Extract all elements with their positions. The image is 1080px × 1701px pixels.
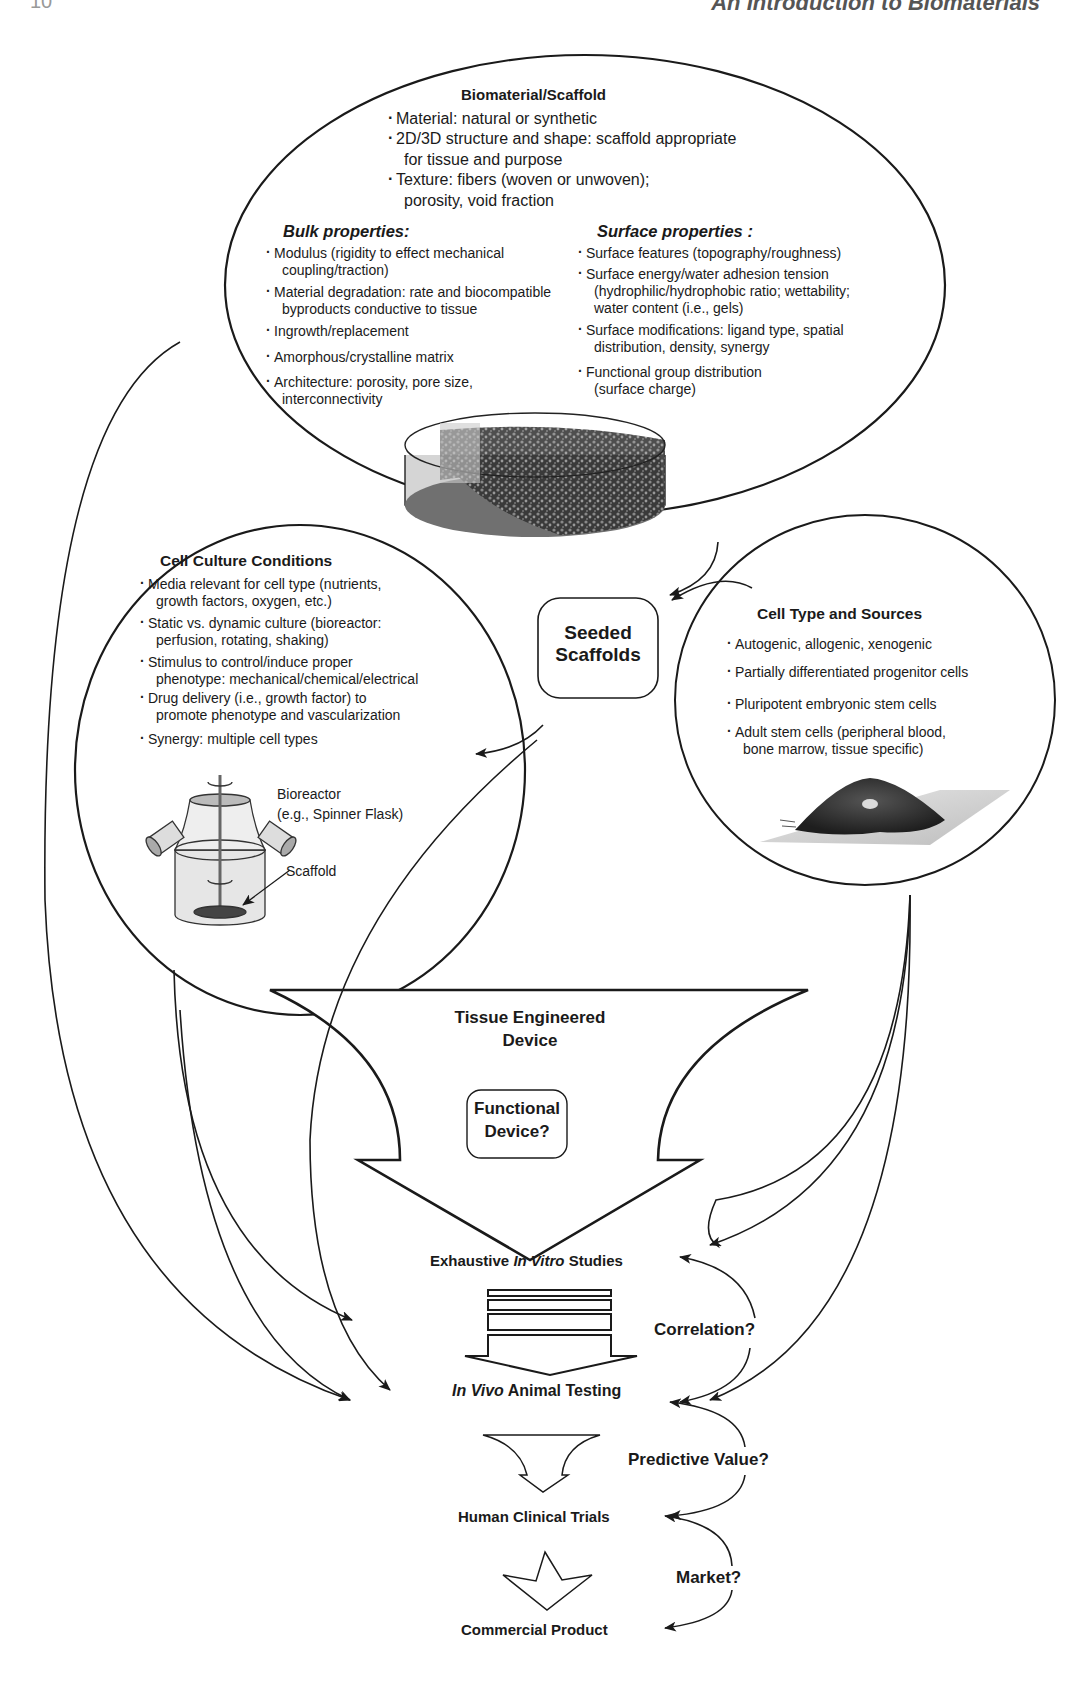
arrow-biomaterial-to-seeded: [670, 542, 718, 595]
list-item: perfusion, rotating, shaking): [140, 632, 418, 648]
market-label: Market?: [676, 1568, 741, 1588]
in-vitro-arrow: [465, 1290, 637, 1375]
arrow-culture-to-invivo: [180, 1010, 350, 1400]
bioreactor-example-label: (e.g., Spinner Flask): [277, 806, 403, 822]
in-vivo-suffix: Animal Testing: [504, 1382, 621, 1399]
list-item: Partially differentiated progenitor cell…: [727, 664, 968, 680]
cell-type-list: Autogenic, allogenic, xenogenic Partiall…: [727, 636, 968, 763]
list-item: (hydrophilic/hydrophobic ratio; wettabil…: [578, 283, 850, 299]
device-label: Tissue Engineered Device: [400, 1008, 660, 1050]
functional-device-label: Functional Device?: [467, 1099, 567, 1141]
biomaterial-general-list: Material: natural or synthetic 2D/3D str…: [388, 110, 736, 216]
bioreactor-label: Bioreactor: [277, 786, 341, 802]
arrow-correlation-up: [680, 1257, 755, 1318]
biomaterial-title: Biomaterial/Scaffold: [461, 86, 606, 103]
list-item: Media relevant for cell type (nutrients,: [140, 576, 418, 592]
list-item: Adult stem cells (peripheral blood,: [727, 724, 968, 740]
device-line-2: Device: [400, 1031, 660, 1051]
in-vitro-italic: In Vitro: [513, 1252, 564, 1269]
list-item: phenotype: mechanical/chemical/electrica…: [140, 671, 418, 687]
surface-properties-list: Surface features (topography/roughness) …: [578, 245, 850, 403]
list-item: Modulus (rigidity to effect mechanical: [266, 245, 551, 261]
list-item: Amorphous/crystalline matrix: [266, 349, 551, 365]
cell-culture-list: Media relevant for cell type (nutrients,…: [140, 576, 418, 753]
list-item: Stimulus to control/induce proper: [140, 654, 418, 670]
seeded-line-2: Scaffolds: [538, 644, 658, 666]
scaffold-cylinder-illustration: [405, 413, 665, 537]
list-item: byproducts conductive to tissue: [266, 301, 551, 317]
arrow-seeded-to-culture: [476, 725, 543, 754]
commercial-product-label: Commercial Product: [461, 1621, 608, 1638]
list-item: water content (i.e., gels): [578, 300, 850, 316]
arrow-predictive-down: [670, 1475, 745, 1516]
cell-type-title: Cell Type and Sources: [757, 605, 922, 623]
cell-culture-title: Cell Culture Conditions: [160, 552, 332, 570]
in-vivo-funnel: [483, 1435, 600, 1492]
correlation-label: Correlation?: [654, 1320, 755, 1340]
list-item: 2D/3D structure and shape: scaffold appr…: [388, 130, 736, 148]
list-item: interconnectivity: [266, 391, 551, 407]
bioreactor-illustration: [143, 775, 299, 925]
in-vitro-studies-label: Exhaustive In Vitro Studies: [430, 1252, 623, 1269]
in-vivo-testing-label: In Vivo Animal Testing: [452, 1382, 621, 1400]
list-item: growth factors, oxygen, etc.): [140, 593, 418, 609]
arrow-predictive-up: [670, 1402, 745, 1447]
list-item: Static vs. dynamic culture (bioreactor:: [140, 615, 418, 631]
list-item: Surface features (topography/roughness): [578, 245, 850, 261]
list-item: Material degradation: rate and biocompat…: [266, 284, 551, 300]
list-item: for tissue and purpose: [388, 151, 736, 169]
seeded-scaffolds-label: Seeded Scaffolds: [538, 622, 658, 666]
clinical-trials-label: Human Clinical Trials: [458, 1508, 610, 1525]
arrow-celltype-to-invitro: [708, 895, 910, 1246]
list-item: Texture: fibers (woven or unwoven);: [388, 171, 736, 189]
list-item: Autogenic, allogenic, xenogenic: [727, 636, 968, 652]
list-item: Material: natural or synthetic: [388, 110, 736, 128]
list-item: Ingrowth/replacement: [266, 323, 551, 339]
arrow-market-up: [665, 1516, 732, 1566]
cell-image: [760, 778, 1010, 845]
bulk-properties-list: Modulus (rigidity to effect mechanical c…: [266, 245, 551, 413]
list-item: bone marrow, tissue specific): [727, 741, 968, 757]
clinical-star-arrow: [503, 1552, 592, 1610]
arrow-market-down: [665, 1590, 732, 1628]
list-item: Drug delivery (i.e., growth factor) to: [140, 690, 418, 706]
device-line-1: Tissue Engineered: [400, 1008, 660, 1028]
bulk-properties-title: Bulk properties:: [283, 222, 410, 241]
list-item: promote phenotype and vascularization: [140, 707, 418, 723]
list-item: coupling/traction): [266, 262, 551, 278]
seeded-line-1: Seeded: [538, 622, 658, 644]
scaffold-label: Scaffold: [286, 863, 336, 879]
list-item: Surface modifications: ligand type, spat…: [578, 322, 850, 338]
surface-properties-title: Surface properties :: [597, 222, 753, 241]
list-item: distribution, density, synergy: [578, 339, 850, 355]
in-vitro-prefix: Exhaustive: [430, 1252, 513, 1269]
list-item: Pluripotent embryonic stem cells: [727, 696, 968, 712]
in-vitro-suffix: Studies: [564, 1252, 622, 1269]
functional-line-1: Functional: [467, 1099, 567, 1119]
list-item: Architecture: porosity, pore size,: [266, 374, 551, 390]
arrow-correlation-down: [680, 1348, 750, 1402]
list-item: Synergy: multiple cell types: [140, 731, 418, 747]
predictive-value-label: Predictive Value?: [628, 1450, 769, 1470]
list-item: porosity, void fraction: [388, 192, 736, 210]
list-item: (surface charge): [578, 381, 850, 397]
functional-line-2: Device?: [467, 1122, 567, 1142]
list-item: Functional group distribution: [578, 364, 850, 380]
list-item: Surface energy/water adhesion tension: [578, 266, 850, 282]
in-vivo-italic: In Vivo: [452, 1382, 504, 1399]
